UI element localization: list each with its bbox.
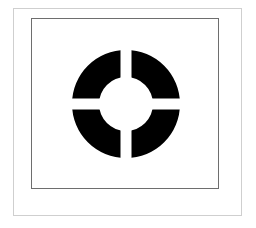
ring-shape — [72, 50, 180, 158]
lifebuoy-ring-icon — [0, 0, 256, 228]
